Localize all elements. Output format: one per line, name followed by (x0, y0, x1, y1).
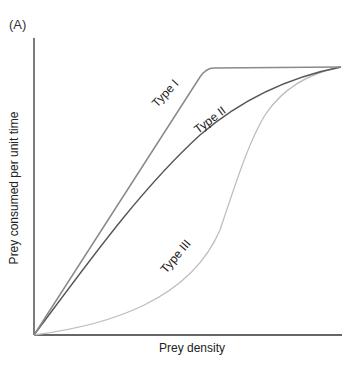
type-iii-curve (34, 67, 341, 335)
type-ii-curve (34, 67, 341, 335)
type-i-curve (34, 67, 341, 335)
functional-response-chart: Type I Type II Type III (0, 0, 356, 366)
type-iii-label: Type III (158, 237, 194, 276)
type-ii-label: Type II (191, 104, 228, 137)
x-axis-label: Prey density (0, 341, 356, 355)
type-i-label: Type I (149, 77, 182, 110)
y-axis-label: Prey consumed per unit time (7, 112, 21, 265)
